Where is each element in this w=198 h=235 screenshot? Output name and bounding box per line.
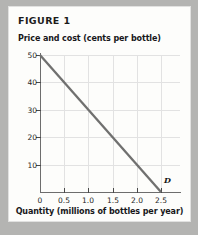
chart-plot-area: 50 40 30 20 10 0 0.5 1.0 1.5 2.0 2.5 D [9,7,190,221]
series-label-demand: D [164,175,171,185]
demand-curve [9,7,190,221]
figure-card: FIGURE 1 Price and cost (cents per bottl… [9,7,190,221]
x-axis-label: Quantity (millions of bottles per year) [9,207,190,216]
